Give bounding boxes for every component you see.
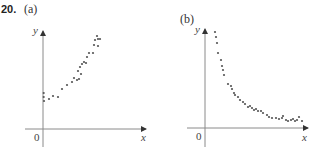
panel-b-origin-label: 0	[196, 130, 202, 142]
data-point	[221, 65, 223, 67]
panel-a-points	[43, 35, 101, 102]
data-point	[296, 119, 298, 121]
data-point	[298, 116, 300, 118]
data-point	[73, 77, 75, 79]
data-point	[96, 35, 98, 37]
data-point	[268, 116, 270, 118]
data-point	[99, 38, 101, 40]
data-point	[239, 99, 241, 101]
data-point	[271, 117, 273, 119]
data-point	[223, 74, 225, 76]
data-point	[76, 79, 78, 81]
data-point	[281, 117, 283, 119]
data-point	[86, 56, 88, 58]
data-point	[57, 96, 59, 98]
data-point	[43, 100, 45, 102]
panel-a-axes	[25, 31, 146, 147]
data-point	[290, 119, 292, 121]
data-point	[237, 96, 239, 98]
data-point	[77, 70, 79, 72]
data-point	[301, 120, 303, 122]
panel-a-origin-label: 0	[34, 131, 40, 143]
data-point	[71, 81, 73, 83]
data-point	[278, 118, 280, 120]
data-point	[251, 107, 253, 109]
panel-b-axes	[187, 29, 308, 147]
data-point	[282, 115, 284, 117]
data-point	[83, 61, 85, 63]
data-point	[92, 52, 94, 54]
data-point	[234, 94, 236, 96]
data-point	[294, 120, 296, 122]
data-point	[88, 52, 90, 54]
data-point	[275, 117, 277, 119]
data-point	[215, 36, 217, 38]
data-point	[216, 42, 218, 44]
data-point	[247, 106, 249, 108]
data-point	[253, 109, 255, 111]
data-point	[217, 52, 219, 54]
panel-b-points	[214, 31, 303, 122]
panel-b-x-label: x	[302, 131, 307, 143]
data-point	[85, 62, 87, 64]
data-point	[242, 101, 244, 103]
data-point	[66, 84, 68, 86]
data-point	[257, 110, 259, 112]
data-point	[61, 88, 63, 90]
data-point	[266, 114, 268, 116]
data-point	[287, 120, 289, 122]
data-point	[81, 63, 83, 65]
data-point	[255, 108, 257, 110]
data-point	[227, 83, 229, 85]
data-point	[262, 112, 264, 114]
data-point	[230, 85, 232, 87]
panel-b-y-label: y	[195, 23, 200, 35]
panel-a-y-label: y	[33, 24, 38, 36]
data-point	[220, 59, 222, 61]
plot-canvas	[0, 0, 310, 153]
data-point	[43, 92, 45, 94]
data-point	[244, 103, 246, 105]
data-point	[249, 105, 251, 107]
data-point	[93, 44, 95, 46]
data-point	[231, 88, 233, 90]
panel-a-x-label: x	[141, 131, 146, 143]
data-point	[79, 66, 81, 68]
data-point	[233, 92, 235, 94]
data-point	[48, 98, 50, 100]
data-point	[97, 45, 99, 47]
data-point	[222, 69, 224, 71]
data-point	[94, 39, 96, 41]
data-point	[97, 38, 99, 40]
data-point	[80, 73, 82, 75]
data-point	[214, 31, 216, 33]
scatter-figure: 20. (a) (b) y 0 x y 0 x	[0, 0, 310, 153]
data-point	[78, 78, 80, 80]
data-point	[285, 119, 287, 121]
data-point	[43, 96, 45, 98]
data-point	[52, 95, 54, 97]
data-point	[260, 110, 262, 112]
data-point	[292, 118, 294, 120]
